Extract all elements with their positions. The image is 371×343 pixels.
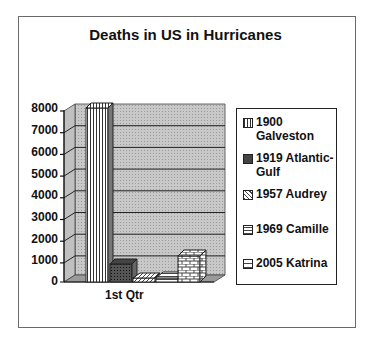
- legend-swatch-icon: [243, 118, 253, 128]
- ytick-3000: 3000: [18, 211, 58, 223]
- ytick-2000: 2000: [18, 233, 58, 245]
- legend-swatch-icon: [243, 154, 253, 164]
- legend-item: 1957 Audrey: [243, 187, 334, 201]
- ytick-1000: 1000: [18, 254, 58, 266]
- side-wall: [64, 104, 75, 282]
- legend: 1900 Galveston 1919 Atlantic-Gulf 1957 A…: [236, 108, 337, 285]
- bar-1900-galveston: [86, 103, 113, 282]
- x-category-label: 1st Qtr: [105, 288, 144, 302]
- ytick-7000: 7000: [18, 124, 58, 136]
- ytick-4000: 4000: [18, 189, 58, 201]
- ytick-8000: 8000: [18, 102, 58, 114]
- ytick-0: 0: [18, 275, 58, 287]
- bar-2005-katrina: [178, 250, 206, 282]
- ytick-5000: 5000: [18, 168, 58, 180]
- legend-item: 1919 Atlantic-Gulf: [243, 151, 334, 179]
- legend-swatch-icon: [243, 225, 253, 235]
- legend-swatch-icon: [243, 190, 253, 200]
- legend-item: 2005 Katrina: [243, 256, 334, 270]
- legend-swatch-icon: [243, 259, 253, 269]
- legend-item: 1900 Galveston: [243, 115, 334, 143]
- legend-item: 1969 Camille: [243, 222, 334, 236]
- ytick-6000: 6000: [18, 146, 58, 158]
